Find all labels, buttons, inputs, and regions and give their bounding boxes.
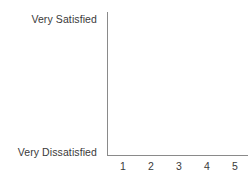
satisfaction-scale-chart: Very Satisfied Very Dissatisfied 1 2 3 4… xyxy=(0,0,249,180)
y-axis-label-very-satisfied: Very Satisfied xyxy=(0,13,97,25)
plot-area xyxy=(108,12,248,155)
x-axis-tick-labels: 1 2 3 4 5 xyxy=(107,160,248,174)
y-axis-label-very-dissatisfied: Very Dissatisfied xyxy=(0,146,97,158)
x-tick-label-1: 1 xyxy=(115,160,131,172)
x-tick-label-4: 4 xyxy=(199,160,215,172)
y-axis-line xyxy=(107,12,108,155)
x-tick-label-3: 3 xyxy=(171,160,187,172)
x-tick-label-5: 5 xyxy=(227,160,243,172)
x-tick-label-2: 2 xyxy=(143,160,159,172)
x-axis-line xyxy=(107,155,248,156)
